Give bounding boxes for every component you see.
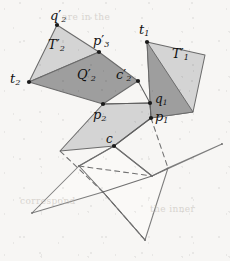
vertex-p3-prime xyxy=(97,50,101,54)
star-tip-left xyxy=(31,212,33,214)
star-tip-right xyxy=(221,143,223,145)
label-T1p: T′1 xyxy=(172,47,189,62)
figure-container: q′2T′2p′3t1T′1t2Q′2c′2q1p2p1c are in the… xyxy=(0,0,230,261)
label-t1: t1 xyxy=(139,23,149,38)
label-p2: p2 xyxy=(93,108,106,123)
star-outline xyxy=(32,144,222,240)
vertex-q1 xyxy=(148,101,152,105)
dashed-crease-0 xyxy=(151,118,168,168)
star-inner-upper-left xyxy=(78,165,80,167)
label-c: c xyxy=(106,133,113,145)
star-inner-lower xyxy=(102,191,104,193)
edge-c2prime-q1 xyxy=(138,81,150,103)
vertex-c2-prime xyxy=(136,79,140,83)
label-T2p: T′2 xyxy=(48,38,65,53)
geometry-canvas xyxy=(0,0,230,261)
star-tip-bottom xyxy=(144,239,146,241)
label-p3p: p′3 xyxy=(93,34,109,49)
vertex-p2 xyxy=(101,102,105,106)
label-p1: p1 xyxy=(155,110,168,125)
vertex-t2 xyxy=(27,80,31,84)
label-q2p: q′2 xyxy=(50,9,66,24)
star-inner-upper-right xyxy=(151,175,153,177)
label-t2: t2 xyxy=(10,72,20,87)
label-Q2p: Q′2 xyxy=(77,68,96,83)
vertex-t1 xyxy=(145,40,149,44)
label-c2p: c′2 xyxy=(116,68,131,83)
label-q1: q1 xyxy=(155,93,167,106)
vertex-p1 xyxy=(149,116,153,120)
